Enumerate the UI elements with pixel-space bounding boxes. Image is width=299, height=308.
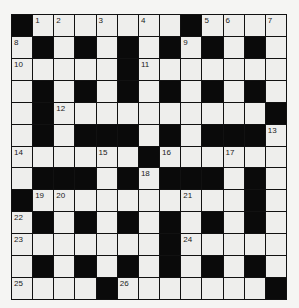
grid-cell[interactable] [139, 256, 159, 277]
grid-cell[interactable] [224, 190, 244, 211]
grid-cell[interactable] [139, 190, 159, 211]
grid-cell[interactable] [224, 168, 244, 189]
grid-cell[interactable] [181, 278, 201, 299]
grid-cell[interactable]: 22 [12, 212, 32, 233]
grid-cell[interactable] [75, 15, 95, 36]
grid-cell[interactable]: 16 [160, 147, 180, 168]
grid-cell[interactable] [202, 190, 222, 211]
grid-cell[interactable]: 7 [266, 15, 286, 36]
grid-cell[interactable] [202, 234, 222, 255]
grid-cell[interactable] [139, 278, 159, 299]
grid-cell[interactable] [202, 278, 222, 299]
grid-cell[interactable] [97, 234, 117, 255]
grid-cell[interactable] [139, 81, 159, 102]
grid-cell[interactable] [75, 59, 95, 80]
grid-cell[interactable] [54, 278, 74, 299]
grid-cell[interactable] [33, 59, 53, 80]
grid-cell[interactable]: 18 [139, 168, 159, 189]
grid-cell[interactable] [266, 234, 286, 255]
grid-cell[interactable]: 4 [139, 15, 159, 36]
grid-cell[interactable] [181, 103, 201, 124]
grid-cell[interactable] [181, 125, 201, 146]
grid-cell[interactable] [266, 212, 286, 233]
grid-cell[interactable] [160, 190, 180, 211]
grid-cell[interactable]: 6 [224, 15, 244, 36]
grid-cell[interactable] [160, 103, 180, 124]
grid-cell[interactable] [97, 168, 117, 189]
grid-cell[interactable]: 25 [12, 278, 32, 299]
grid-cell[interactable] [118, 15, 138, 36]
grid-cell[interactable] [202, 147, 222, 168]
grid-cell[interactable] [97, 190, 117, 211]
grid-cell[interactable]: 12 [54, 103, 74, 124]
grid-cell[interactable]: 10 [12, 59, 32, 80]
grid-cell[interactable]: 15 [97, 147, 117, 168]
grid-cell[interactable]: 9 [181, 37, 201, 58]
grid-cell[interactable] [139, 125, 159, 146]
grid-cell[interactable] [97, 37, 117, 58]
grid-cell[interactable]: 14 [12, 147, 32, 168]
grid-cell[interactable] [118, 234, 138, 255]
grid-cell[interactable] [139, 234, 159, 255]
grid-cell[interactable] [224, 256, 244, 277]
grid-cell[interactable] [75, 103, 95, 124]
grid-cell[interactable] [266, 256, 286, 277]
grid-cell[interactable] [266, 81, 286, 102]
grid-cell[interactable]: 3 [97, 15, 117, 36]
grid-cell[interactable] [181, 212, 201, 233]
grid-cell[interactable] [160, 278, 180, 299]
grid-cell[interactable] [75, 234, 95, 255]
grid-cell[interactable] [12, 81, 32, 102]
grid-cell[interactable] [54, 234, 74, 255]
grid-cell[interactable] [54, 37, 74, 58]
grid-cell[interactable] [202, 59, 222, 80]
grid-cell[interactable] [54, 81, 74, 102]
grid-cell[interactable] [245, 278, 265, 299]
grid-cell[interactable] [224, 37, 244, 58]
grid-cell[interactable] [54, 59, 74, 80]
grid-cell[interactable] [181, 59, 201, 80]
grid-cell[interactable] [224, 212, 244, 233]
grid-cell[interactable] [33, 278, 53, 299]
grid-cell[interactable] [75, 190, 95, 211]
grid-cell[interactable] [160, 59, 180, 80]
grid-cell[interactable]: 2 [54, 15, 74, 36]
grid-cell[interactable] [118, 103, 138, 124]
grid-cell[interactable]: 21 [181, 190, 201, 211]
grid-cell[interactable] [224, 81, 244, 102]
grid-cell[interactable] [75, 147, 95, 168]
grid-cell[interactable] [33, 147, 53, 168]
grid-cell[interactable] [224, 59, 244, 80]
grid-cell[interactable] [12, 103, 32, 124]
grid-cell[interactable] [12, 125, 32, 146]
grid-cell[interactable] [97, 59, 117, 80]
grid-cell[interactable]: 1 [33, 15, 53, 36]
grid-cell[interactable] [54, 256, 74, 277]
grid-cell[interactable] [245, 147, 265, 168]
grid-cell[interactable] [97, 212, 117, 233]
grid-cell[interactable] [97, 103, 117, 124]
grid-cell[interactable] [245, 15, 265, 36]
grid-cell[interactable] [75, 278, 95, 299]
grid-cell[interactable]: 8 [12, 37, 32, 58]
grid-cell[interactable] [224, 278, 244, 299]
grid-cell[interactable] [224, 103, 244, 124]
grid-cell[interactable] [266, 147, 286, 168]
grid-cell[interactable] [97, 256, 117, 277]
grid-cell[interactable] [266, 168, 286, 189]
grid-cell[interactable]: 24 [181, 234, 201, 255]
grid-cell[interactable] [118, 147, 138, 168]
grid-cell[interactable]: 19 [33, 190, 53, 211]
grid-cell[interactable] [245, 103, 265, 124]
grid-cell[interactable] [266, 190, 286, 211]
grid-cell[interactable] [266, 59, 286, 80]
grid-cell[interactable]: 5 [202, 15, 222, 36]
grid-cell[interactable] [139, 212, 159, 233]
grid-cell[interactable] [224, 234, 244, 255]
grid-cell[interactable]: 17 [224, 147, 244, 168]
grid-cell[interactable] [139, 103, 159, 124]
grid-cell[interactable]: 11 [139, 59, 159, 80]
grid-cell[interactable] [266, 37, 286, 58]
grid-cell[interactable]: 20 [54, 190, 74, 211]
grid-cell[interactable] [181, 256, 201, 277]
